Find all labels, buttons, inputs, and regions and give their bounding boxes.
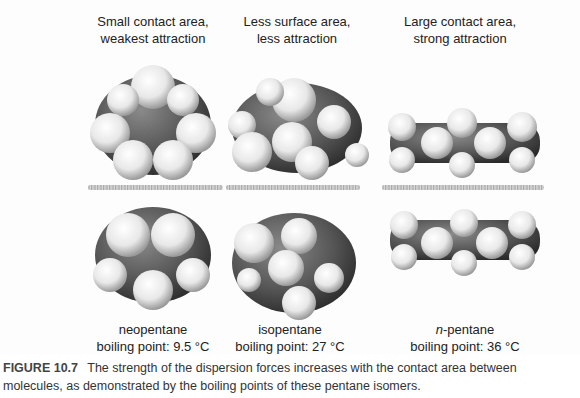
molecule-suffix: -pentane (443, 322, 494, 337)
figure-caption: FIGURE 10.7 The strength of the dispersi… (3, 359, 577, 395)
figure-panel: Small contact area, weakest attraction L… (0, 0, 580, 355)
isopentane-model-top (222, 70, 372, 180)
n-pentane-model-bottom (382, 205, 547, 280)
isopentane-model-bottom (224, 208, 364, 323)
dispersion-line-isopentane (226, 185, 360, 190)
neopentane-model-top (88, 65, 218, 180)
neopentane-model-bottom (88, 205, 218, 315)
dispersion-line-neopentane (88, 185, 223, 190)
n-pentane-model-top (382, 105, 547, 180)
dispersion-line-n-pentane (382, 185, 544, 190)
heading-line: strong attraction (370, 30, 550, 47)
molecule-name: isopentane (200, 321, 380, 338)
heading-n-pentane: Large contact area, strong attraction (370, 13, 550, 47)
molecule-prefix: n (436, 322, 443, 337)
heading-line: less attraction (207, 30, 387, 47)
label-n-pentane: n-pentane boiling point: 36 °C (375, 321, 555, 355)
caption-text: The strength of the dispersion forces in… (3, 361, 517, 393)
label-isopentane: isopentane boiling point: 27 °C (200, 321, 380, 355)
boiling-point: boiling point: 27 °C (200, 338, 380, 355)
heading-line: Less surface area, (207, 13, 387, 30)
heading-isopentane: Less surface area, less attraction (207, 13, 387, 47)
heading-line: Large contact area, (370, 13, 550, 30)
figure-label: FIGURE 10.7 (3, 361, 78, 375)
boiling-point: boiling point: 36 °C (375, 338, 555, 355)
molecule-name: n-pentane (375, 321, 555, 338)
